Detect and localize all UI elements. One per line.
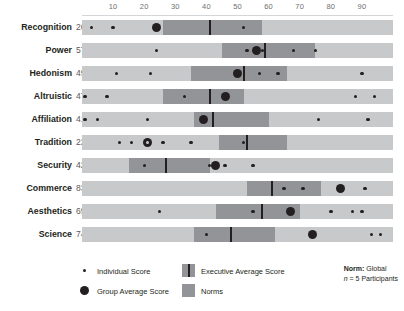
axis-rule (82, 15, 393, 16)
chart-row: Power57 (0, 40, 404, 63)
individual-score-dot (90, 26, 93, 29)
row-label-power: Power (0, 45, 72, 55)
chart-row: Science74 (0, 224, 404, 247)
row-track (82, 89, 393, 104)
norms-band (163, 20, 263, 35)
individual-score-dot (373, 95, 376, 98)
individual-score-dot (143, 164, 146, 167)
executive-average-marker (243, 66, 245, 81)
individual-score-dot (105, 95, 108, 98)
individual-score-dot (155, 49, 158, 52)
row-track (82, 43, 393, 58)
x-axis: 102030405060708090 (0, 0, 404, 17)
row-track (82, 20, 393, 35)
chart-row: Security42 (0, 155, 404, 178)
individual-score-dot (158, 210, 161, 213)
legend-label: Executive Average Score (201, 267, 285, 276)
group-average-dot (143, 138, 152, 147)
individual-score-dot (282, 187, 285, 190)
legend-swatch-small-dot-icon (78, 264, 91, 277)
norms-band (129, 158, 210, 173)
group-average-dot (152, 23, 161, 32)
row-track (82, 227, 393, 242)
executive-average-marker (212, 112, 214, 127)
chart-row: Altruistic47 (0, 86, 404, 109)
group-average-dot (233, 69, 242, 78)
norms-band (163, 89, 244, 104)
row-track (82, 181, 393, 196)
individual-score-dot (96, 118, 99, 121)
row-label-recognition: Recognition (0, 22, 72, 32)
chart-row: Tradition22 (0, 132, 404, 155)
row-label-altruistic: Altruistic (0, 91, 72, 101)
group-average-dot (211, 161, 220, 170)
individual-score-dot (351, 210, 354, 213)
row-label-science: Science (0, 229, 72, 239)
executive-average-marker (271, 181, 273, 196)
norms-band (222, 43, 315, 58)
legend-label: Norms (201, 287, 223, 296)
group-average-dot (336, 184, 345, 193)
group-average-dot (252, 46, 261, 55)
group-average-dot (308, 230, 317, 239)
x-tick-label: 20 (140, 2, 149, 11)
x-tick-label: 70 (295, 2, 304, 11)
individual-score-dot (161, 141, 164, 144)
norm-note-n-text: = 5 Participants (350, 275, 398, 282)
individual-score-dot (251, 164, 254, 167)
individual-score-dot (189, 141, 192, 144)
group-average-dot (221, 92, 230, 101)
executive-average-marker (261, 204, 263, 219)
executive-average-marker (209, 89, 211, 104)
individual-score-dot (360, 210, 363, 213)
executive-average-marker (230, 227, 232, 242)
individual-score-dot (301, 187, 304, 190)
legend-swatch-norms-block-icon (182, 284, 195, 297)
individual-score-dot (317, 118, 320, 121)
row-label-tradition: Tradition (0, 137, 72, 147)
individual-score-dot (329, 210, 332, 213)
individual-score-dot (366, 118, 369, 121)
individual-score-dot (115, 72, 118, 75)
row-track (82, 204, 393, 219)
row-track (82, 66, 393, 81)
norm-note-n-label: n (344, 275, 348, 282)
norm-note: Norm: Global n = 5 Participants (344, 264, 398, 284)
x-tick-label: 50 (233, 2, 242, 11)
group-average-dot (199, 115, 208, 124)
x-tick-label: 90 (358, 2, 367, 11)
individual-score-dot (118, 141, 121, 144)
executive-average-marker (264, 43, 266, 58)
chart-row: Recognition26 (0, 17, 404, 40)
chart-root: 102030405060708090 Recognition26Power57H… (0, 0, 404, 311)
individual-score-dot (251, 210, 254, 213)
individual-score-dot (276, 72, 279, 75)
individual-score-dot (354, 95, 357, 98)
executive-average-marker (165, 158, 167, 173)
individual-score-dot (360, 72, 363, 75)
individual-score-dot (363, 187, 366, 190)
individual-score-dot (223, 164, 226, 167)
x-tick-label: 10 (109, 2, 118, 11)
x-tick-label: 40 (202, 2, 211, 11)
legend-swatch-norms-with-line-icon (182, 264, 195, 277)
executive-average-marker (209, 20, 211, 35)
norms-band (219, 135, 287, 150)
chart-row: Affiliation41 (0, 109, 404, 132)
row-label-hedonism: Hedonism (0, 68, 72, 78)
individual-score-dot (245, 49, 248, 52)
individual-score-dot (83, 118, 86, 121)
row-track (82, 135, 393, 150)
individual-score-dot (149, 72, 152, 75)
chart-rows: Recognition26Power57Hedonism49Altruistic… (0, 17, 404, 247)
individual-score-dot (83, 95, 86, 98)
chart-row: Hedonism49 (0, 63, 404, 86)
row-track (82, 158, 393, 173)
norm-note-title: Norm: (344, 265, 365, 272)
individual-score-dot (379, 233, 382, 236)
x-tick-label: 30 (171, 2, 180, 11)
chart-legend: Norm: Global n = 5 Participants Individu… (0, 262, 404, 311)
group-average-dot (286, 207, 295, 216)
legend-swatch-large-dot-icon (78, 284, 91, 297)
row-label-commerce: Commerce (0, 183, 72, 193)
